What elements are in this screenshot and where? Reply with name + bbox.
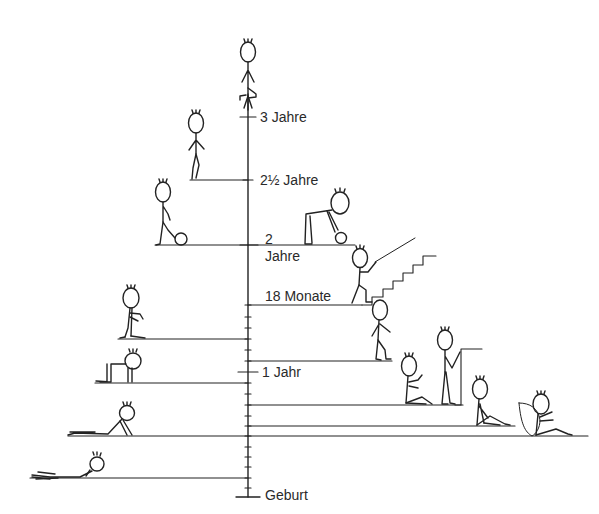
milestone-diagram: 3 Jahre 2½ Jahre 2 Jahre 18 Monate 1 Jah…: [0, 0, 599, 514]
figure-pulling-to-stand: [438, 327, 483, 405]
figure-tiptoe: [189, 110, 205, 179]
figure-sitting-unsupported: [473, 376, 511, 425]
figure-walking: [372, 300, 391, 360]
label-1-jahr: 1 Jahr: [262, 364, 301, 380]
figure-bending-ball: [305, 188, 349, 244]
figure-kneeling: [120, 285, 145, 338]
figure-climbing-stairs: [352, 238, 436, 305]
label-2-5-jahre: 2½ Jahre: [260, 172, 318, 188]
label-18-monate: 18 Monate: [265, 288, 331, 304]
figure-lying-prone: [32, 452, 104, 479]
figure-prone-forearms: [68, 402, 135, 435]
label-2-jahre-word: Jahre: [265, 248, 300, 264]
label-3-jahre: 3 Jahre: [260, 109, 307, 125]
figure-one-leg: [240, 39, 256, 110]
label-geburt: Geburt: [265, 487, 308, 503]
figure-sitting-playing: [402, 353, 433, 404]
figure-crawling: [96, 349, 141, 382]
label-2-jahre-number: 2: [265, 231, 273, 247]
milestone-lines: [30, 180, 588, 478]
figure-kicking-ball: [156, 179, 188, 245]
figure-sitting-supported: [519, 391, 572, 436]
